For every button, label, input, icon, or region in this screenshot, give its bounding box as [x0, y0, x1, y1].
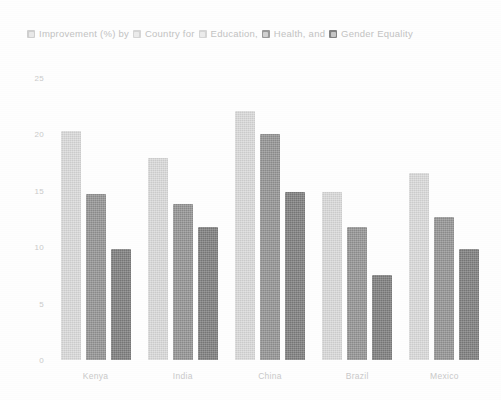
x-axis-tick-label: India	[173, 371, 193, 381]
bar[interactable]	[322, 192, 342, 360]
chart-title-part-1: Improvement (%) by	[39, 28, 129, 39]
chart-title: Improvement (%) by Country for Education…	[26, 26, 466, 42]
y-axis-tick-label: 5	[39, 299, 44, 308]
bar-group: China	[226, 78, 313, 360]
legend-label-gender-equality: Gender Equality	[341, 28, 413, 39]
x-axis-tick-label: Brazil	[346, 371, 369, 381]
bar[interactable]	[459, 249, 479, 360]
bar-chart: Improvement (%) by Country for Education…	[0, 0, 501, 400]
x-axis-tick-label: Mexico	[430, 371, 459, 381]
plot-area: 2520151050 KenyaIndiaChinaBrazilMexico	[52, 78, 488, 360]
y-axis-tick-label: 15	[35, 186, 45, 195]
chart-title-part-2: Country for	[145, 28, 195, 39]
legend-label-education: Education,	[211, 28, 258, 39]
bar[interactable]	[111, 249, 131, 360]
bar[interactable]	[347, 227, 367, 360]
bar[interactable]	[434, 217, 454, 360]
bar[interactable]	[260, 134, 280, 360]
x-axis-tick-label: China	[258, 371, 282, 381]
legend-label-health: Health, and	[274, 28, 325, 39]
bar-group: Mexico	[401, 78, 488, 360]
bar[interactable]	[86, 194, 106, 360]
x-axis-tick-label: Kenya	[83, 371, 109, 381]
bar[interactable]	[148, 158, 168, 360]
bar[interactable]	[61, 131, 81, 360]
bar-group: Brazil	[314, 78, 401, 360]
bar[interactable]	[409, 173, 429, 360]
bar[interactable]	[198, 227, 218, 360]
y-axis-tick-label: 10	[35, 243, 45, 252]
bar[interactable]	[372, 275, 392, 360]
legend-swatch-education-a	[133, 30, 141, 38]
legend-swatch-health	[262, 30, 270, 38]
legend-swatch-title	[27, 30, 35, 38]
y-axis-tick-label: 25	[35, 74, 45, 83]
bar[interactable]	[235, 111, 255, 360]
bar[interactable]	[285, 192, 305, 360]
y-axis-tick-label: 0	[39, 356, 44, 365]
bar-group: Kenya	[52, 78, 139, 360]
bar-group: India	[139, 78, 226, 360]
bar[interactable]	[173, 204, 193, 360]
legend-swatch-gender-equality	[329, 30, 337, 38]
y-axis-tick-label: 20	[35, 130, 45, 139]
legend-swatch-education	[199, 30, 207, 38]
